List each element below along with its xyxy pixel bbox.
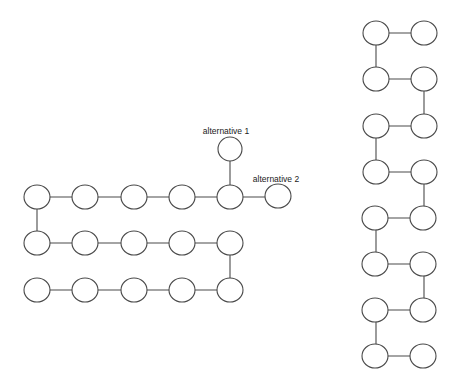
node bbox=[410, 252, 436, 276]
node bbox=[24, 185, 50, 209]
node bbox=[24, 278, 50, 302]
node bbox=[362, 252, 388, 276]
node bbox=[410, 344, 436, 368]
node bbox=[411, 67, 437, 91]
node bbox=[121, 231, 147, 255]
node bbox=[411, 160, 437, 184]
alternative-2-label: alternative 2 bbox=[253, 174, 300, 184]
node bbox=[217, 278, 243, 302]
left-diagram-edges bbox=[37, 149, 278, 290]
node bbox=[217, 231, 243, 255]
node bbox=[362, 298, 388, 322]
node bbox=[363, 67, 389, 91]
node bbox=[24, 231, 50, 255]
diagram-canvas: alternative 1 alternative 2 bbox=[0, 0, 455, 385]
left-diagram-alt1 bbox=[218, 137, 242, 161]
node bbox=[72, 185, 98, 209]
alternative-2-node bbox=[265, 184, 291, 208]
node bbox=[72, 231, 98, 255]
node bbox=[363, 160, 389, 184]
node bbox=[362, 206, 388, 230]
node bbox=[411, 114, 437, 138]
alternative-1-label: alternative 1 bbox=[203, 126, 250, 136]
node bbox=[363, 114, 389, 138]
node bbox=[169, 231, 195, 255]
node bbox=[410, 206, 436, 230]
node bbox=[363, 21, 389, 45]
node bbox=[121, 185, 147, 209]
node bbox=[72, 278, 98, 302]
node bbox=[121, 278, 147, 302]
alternative-1-node bbox=[218, 137, 242, 161]
node bbox=[169, 185, 195, 209]
node bbox=[362, 344, 388, 368]
branch-node bbox=[217, 185, 243, 209]
right-diagram-nodes bbox=[362, 21, 437, 368]
node bbox=[411, 21, 437, 45]
node bbox=[410, 298, 436, 322]
node bbox=[169, 278, 195, 302]
